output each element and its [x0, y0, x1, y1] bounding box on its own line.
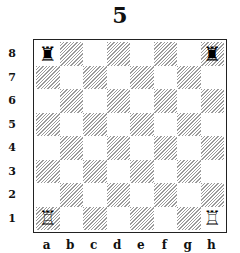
square-h7	[201, 66, 225, 90]
square-d4	[107, 136, 131, 160]
square-b3	[60, 160, 84, 184]
square-b2	[60, 183, 84, 207]
black-rook-icon: ♜	[39, 44, 57, 64]
square-a3	[36, 160, 60, 184]
square-e8	[130, 42, 154, 66]
square-d8	[107, 42, 131, 66]
file-label-b: b	[59, 238, 83, 252]
square-g2	[177, 183, 201, 207]
square-b6	[60, 89, 84, 113]
square-b5	[60, 113, 84, 137]
rank-label-5: 5	[4, 118, 20, 131]
square-a4	[36, 136, 60, 160]
rank-label-2: 2	[4, 188, 20, 201]
square-a8: ♜	[36, 42, 60, 66]
square-f3	[154, 160, 178, 184]
square-e1	[130, 207, 154, 231]
square-f8	[154, 42, 178, 66]
square-e6	[130, 89, 154, 113]
square-e5	[130, 113, 154, 137]
square-a6	[36, 89, 60, 113]
square-h8: ♜	[201, 42, 225, 66]
square-f1	[154, 207, 178, 231]
square-c2	[83, 183, 107, 207]
square-d3	[107, 160, 131, 184]
file-label-f: f	[153, 238, 177, 252]
square-e2	[130, 183, 154, 207]
square-a5	[36, 113, 60, 137]
rank-label-4: 4	[4, 141, 20, 154]
square-b8	[60, 42, 84, 66]
white-rook-icon: ♖	[203, 208, 221, 228]
square-a1: ♖	[36, 207, 60, 231]
file-label-e: e	[129, 238, 153, 252]
square-e4	[130, 136, 154, 160]
square-b4	[60, 136, 84, 160]
file-label-d: d	[106, 238, 130, 252]
file-label-g: g	[176, 238, 200, 252]
square-h5	[201, 113, 225, 137]
square-c5	[83, 113, 107, 137]
rank-label-6: 6	[4, 94, 20, 107]
black-rook-icon: ♜	[203, 44, 221, 64]
file-label-a: a	[35, 238, 59, 252]
file-label-h: h	[200, 238, 224, 252]
square-g6	[177, 89, 201, 113]
square-f7	[154, 66, 178, 90]
board-grid: ♜♜♖♖	[36, 42, 224, 230]
square-d2	[107, 183, 131, 207]
square-g7	[177, 66, 201, 90]
square-a7	[36, 66, 60, 90]
file-label-c: c	[82, 238, 106, 252]
square-h1: ♖	[201, 207, 225, 231]
square-h3	[201, 160, 225, 184]
square-c4	[83, 136, 107, 160]
square-d5	[107, 113, 131, 137]
square-h6	[201, 89, 225, 113]
square-b7	[60, 66, 84, 90]
square-h4	[201, 136, 225, 160]
square-e7	[130, 66, 154, 90]
square-c3	[83, 160, 107, 184]
diagram-title: 5	[0, 0, 240, 30]
rank-label-1: 1	[4, 212, 20, 225]
square-d6	[107, 89, 131, 113]
square-f2	[154, 183, 178, 207]
square-f4	[154, 136, 178, 160]
square-g8	[177, 42, 201, 66]
rank-label-8: 8	[4, 47, 20, 60]
square-c1	[83, 207, 107, 231]
chess-board: ♜♜♖♖	[33, 39, 227, 233]
square-d1	[107, 207, 131, 231]
square-g5	[177, 113, 201, 137]
square-a2	[36, 183, 60, 207]
square-g4	[177, 136, 201, 160]
square-b1	[60, 207, 84, 231]
square-f5	[154, 113, 178, 137]
square-d7	[107, 66, 131, 90]
square-c8	[83, 42, 107, 66]
square-h2	[201, 183, 225, 207]
square-g1	[177, 207, 201, 231]
square-c7	[83, 66, 107, 90]
white-rook-icon: ♖	[39, 208, 57, 228]
rank-label-3: 3	[4, 165, 20, 178]
square-g3	[177, 160, 201, 184]
square-f6	[154, 89, 178, 113]
square-c6	[83, 89, 107, 113]
square-e3	[130, 160, 154, 184]
rank-label-7: 7	[4, 71, 20, 84]
